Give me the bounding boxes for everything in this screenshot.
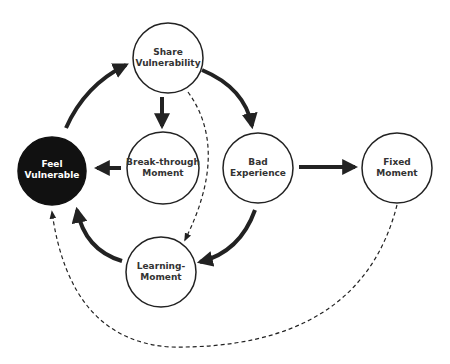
edge-feel-to-share (66, 65, 126, 128)
node-bad-experience: Bad Experience (223, 133, 293, 203)
svg-text:Share: Share (153, 47, 183, 57)
svg-text:Moment: Moment (140, 272, 182, 282)
svg-text:Fixed: Fixed (383, 157, 411, 167)
svg-text:Feel: Feel (41, 159, 62, 169)
svg-text:Break-through: Break-through (126, 157, 200, 167)
edge-bad-to-learning (200, 210, 255, 262)
node-learning-moment: Learning- Moment (126, 237, 196, 307)
svg-text:Vulnerability: Vulnerability (135, 58, 200, 68)
svg-text:Vulnerable: Vulnerable (25, 170, 80, 180)
svg-text:Moment: Moment (376, 168, 418, 178)
edge-share-to-bad (202, 70, 252, 126)
node-feel-vulnerable: Feel Vulnerable (18, 137, 86, 205)
edge-learning-to-feel (77, 210, 122, 261)
svg-text:Bad: Bad (248, 157, 267, 167)
cycle-diagram: Share Vulnerability Feel Vulnerable Brea… (0, 0, 450, 364)
node-fixed-moment: Fixed Moment (362, 133, 432, 203)
svg-text:Learning-: Learning- (137, 261, 186, 271)
node-break-through-moment: Break-through Moment (126, 132, 200, 204)
node-share-vulnerability: Share Vulnerability (133, 23, 203, 93)
svg-text:Moment: Moment (142, 168, 184, 178)
edge-fixed-to-feel (52, 205, 397, 347)
svg-text:Experience: Experience (230, 168, 286, 178)
